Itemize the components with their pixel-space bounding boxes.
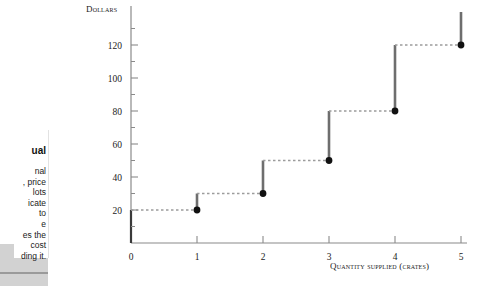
data-point-dot (260, 190, 267, 197)
data-point-dot (194, 207, 201, 214)
y-axis-title: Dollars (86, 1, 146, 21)
data-point-dot (458, 42, 465, 49)
x-tick-label: 0 (129, 252, 134, 262)
y-tick-label: 100 (108, 74, 123, 84)
chart-tick-labels: 20406080100120012345 (108, 41, 464, 263)
chart-axes (131, 6, 467, 243)
y-tick-label: 80 (113, 107, 123, 117)
chart-tick-marks (131, 29, 461, 244)
data-point-dot (392, 108, 399, 115)
step-supply-chart: 20406080100120012345 Dollars Quantity su… (0, 0, 502, 286)
x-tick-label: 1 (195, 252, 200, 262)
x-tick-label: 2 (261, 252, 266, 262)
x-axis-title: Quantity supplied (crates) (330, 258, 500, 278)
y-tick-label: 60 (113, 140, 123, 150)
y-tick-label: 40 (113, 173, 123, 183)
svg-text:Dollars: Dollars (86, 4, 117, 14)
y-tick-label: 120 (108, 41, 123, 51)
data-point-dot (326, 157, 333, 164)
svg-text:Quantity supplied (crates): Quantity supplied (crates) (330, 261, 429, 271)
chart-step-series (131, 12, 461, 210)
screenshot-root: ual nal , price lots icate to e es the c… (0, 0, 502, 286)
y-tick-label: 20 (113, 206, 123, 216)
chart-svg: 20406080100120012345 (0, 0, 502, 286)
